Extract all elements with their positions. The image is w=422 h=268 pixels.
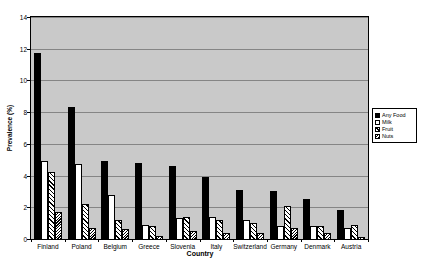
legend-label-fruit: Fruit [382, 126, 393, 132]
bar-cluster-greece [132, 17, 166, 239]
bar-milk-belgium [108, 195, 115, 239]
bar-fruit-greece [149, 226, 156, 239]
plot-area [30, 16, 369, 240]
bar-milk-germany [277, 226, 284, 239]
x-axis-tick [31, 239, 32, 242]
bar-clusters [31, 17, 368, 239]
bar-milk-slovenia [176, 218, 183, 239]
bar-any-food-germany [270, 191, 277, 239]
y-tick-label-0: 0 [11, 236, 27, 243]
bar-fruit-slovenia [183, 217, 190, 239]
bar-milk-denmark [310, 226, 317, 239]
legend-item-milk: Milk [375, 119, 415, 125]
y-axis-tick [27, 17, 30, 18]
bar-cluster-switzerland [233, 17, 267, 239]
x-category-label-denmark: Denmark [304, 243, 330, 250]
legend-item-nuts: Nuts [375, 133, 415, 139]
bar-cluster-finland [31, 17, 65, 239]
y-axis-tick [27, 176, 30, 177]
bar-nuts-germany [291, 228, 298, 239]
bar-nuts-slovenia [190, 231, 197, 239]
x-axis-tick [233, 239, 234, 242]
bar-fruit-germany [284, 206, 291, 239]
bar-nuts-austria [358, 237, 365, 239]
legend-marker-nuts [375, 134, 380, 139]
bar-any-food-italy [202, 177, 209, 239]
legend-item-fruit: Fruit [375, 126, 415, 132]
y-tick-label-2: 2 [11, 204, 27, 211]
bar-chart-food-allergy-prevalence: Prevalence (%) Country Any FoodMilkFruit… [0, 0, 422, 268]
bar-cluster-italy [200, 17, 234, 239]
bar-any-food-finland [34, 53, 41, 239]
bar-fruit-austria [351, 225, 358, 239]
x-axis-tick [200, 239, 201, 242]
legend-marker-milk [375, 120, 380, 125]
bar-any-food-belgium [101, 161, 108, 239]
x-category-label-slovenia: Slovenia [170, 243, 195, 250]
y-tick-label-10: 10 [11, 77, 27, 84]
x-axis-tick [65, 239, 66, 242]
y-axis-tick [27, 239, 30, 240]
bar-milk-switzerland [243, 220, 250, 239]
bar-cluster-denmark [301, 17, 335, 239]
x-axis-tick [166, 239, 167, 242]
legend: Any FoodMilkFruitNuts [372, 108, 417, 143]
bar-milk-finland [41, 161, 48, 239]
legend-label-any-food: Any Food [382, 112, 406, 118]
x-category-label-greece: Greece [138, 243, 159, 250]
y-axis-tick [27, 49, 30, 50]
bar-nuts-greece [156, 236, 163, 239]
bar-nuts-switzerland [257, 233, 264, 239]
bar-any-food-denmark [303, 199, 310, 239]
x-category-label-belgium: Belgium [104, 243, 127, 250]
x-category-label-germany: Germany [270, 243, 297, 250]
legend-label-nuts: Nuts [382, 133, 393, 139]
x-axis-tick [98, 239, 99, 242]
x-category-label-finland: Finland [37, 243, 58, 250]
y-axis-tick [27, 144, 30, 145]
legend-marker-any-food [375, 113, 380, 118]
x-axis-tick [267, 239, 268, 242]
bar-nuts-italy [223, 233, 230, 239]
bar-cluster-germany [267, 17, 301, 239]
bar-nuts-finland [55, 212, 62, 239]
legend-marker-fruit [375, 127, 380, 132]
y-axis-tick [27, 112, 30, 113]
y-tick-label-12: 12 [11, 46, 27, 53]
bar-any-food-switzerland [236, 190, 243, 239]
bar-fruit-denmark [317, 226, 324, 239]
x-axis-tick [334, 239, 335, 242]
legend-item-any-food: Any Food [375, 112, 415, 118]
bar-fruit-italy [216, 220, 223, 239]
bar-fruit-poland [82, 204, 89, 239]
bar-nuts-denmark [324, 233, 331, 239]
bar-any-food-greece [135, 163, 142, 239]
y-tick-label-4: 4 [11, 173, 27, 180]
x-axis-title: Country [187, 250, 214, 257]
x-axis-tick [368, 239, 369, 242]
x-category-label-italy: Italy [210, 243, 222, 250]
bar-fruit-finland [48, 172, 55, 239]
bar-any-food-austria [337, 210, 344, 239]
bar-any-food-slovenia [169, 166, 176, 239]
y-axis-tick [27, 80, 30, 81]
bar-cluster-slovenia [166, 17, 200, 239]
bar-milk-greece [142, 225, 149, 239]
bar-nuts-poland [89, 228, 96, 239]
bar-cluster-austria [334, 17, 368, 239]
bar-nuts-belgium [122, 229, 129, 239]
legend-label-milk: Milk [382, 119, 392, 125]
y-tick-label-8: 8 [11, 109, 27, 116]
bar-fruit-switzerland [250, 223, 257, 239]
y-axis-tick [27, 207, 30, 208]
x-axis-tick [301, 239, 302, 242]
bar-milk-austria [344, 228, 351, 239]
y-tick-label-6: 6 [11, 141, 27, 148]
bar-milk-italy [209, 217, 216, 239]
bar-any-food-poland [68, 107, 75, 239]
x-axis-tick [132, 239, 133, 242]
x-category-label-poland: Poland [71, 243, 91, 250]
x-category-label-austria: Austria [341, 243, 361, 250]
bar-milk-poland [75, 164, 82, 239]
bar-fruit-belgium [115, 220, 122, 239]
